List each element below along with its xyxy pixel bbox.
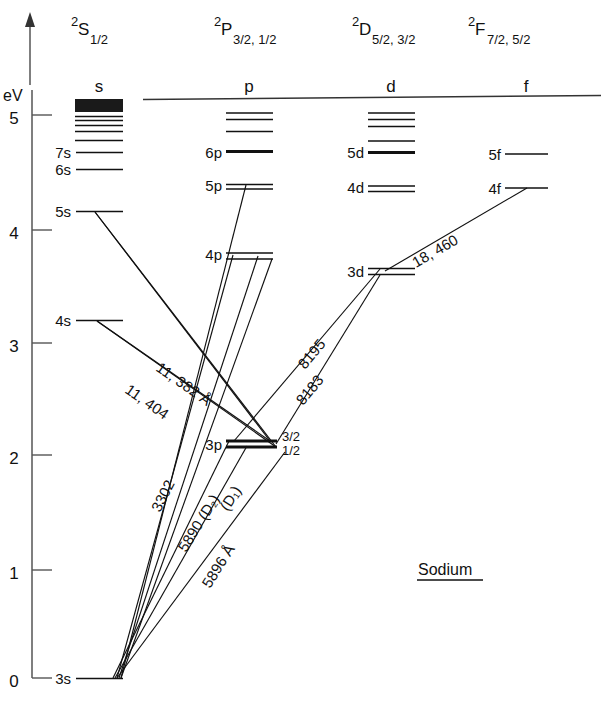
level-label-5p: 5p (205, 177, 222, 194)
grotrian-diagram-figure: eV 5 4 3 2 1 0 2 S 1/2 2 P 3/2, 1/2 2 D … (0, 0, 607, 708)
transition-5s-3p-b (95, 212, 276, 447)
term-d-symbol: D (359, 20, 371, 39)
transition-4f-3d-18460 (385, 188, 527, 271)
transition-4p-3s-a (117, 255, 233, 678)
level-label-4d: 4d (347, 179, 364, 196)
level-label-6p: 6p (205, 144, 222, 161)
term-d-subscript: 5/2, 3/2 (372, 32, 415, 47)
level-label-3s: 3s (55, 670, 71, 687)
f-series-levels (505, 154, 548, 188)
term-p-subscript: 3/2, 1/2 (233, 32, 276, 47)
level-label-4p: 4p (205, 246, 222, 263)
axis-unit-label: eV (3, 87, 23, 104)
transition-3p-3s-5896 (117, 452, 285, 678)
transition-5p-3s (121, 185, 246, 678)
axis-tick-label-2: 2 (9, 449, 18, 468)
fine-structure-label-12: 1/2 (282, 443, 300, 458)
transition-4p-3s-b (119, 256, 258, 678)
transition-lines (95, 185, 527, 678)
term-s-symbol: S (78, 20, 89, 39)
transition-3d-3p-8183 (276, 275, 380, 444)
d-series-levels (368, 113, 415, 275)
column-headers: 2 S 1/2 2 P 3/2, 1/2 2 D 5/2, 3/2 2 F 7/… (71, 14, 530, 96)
orbital-header-d: d (386, 77, 395, 96)
wavelength-label-18460: 18, 460 (409, 231, 461, 271)
wavelength-annotations: 11, 382 Å 11, 404 3302 5890 (D₂) 5896 Å … (122, 231, 461, 591)
term-f-symbol: F (475, 20, 485, 39)
axis-tick-label-1: 1 (9, 564, 18, 583)
axis-tick-label-4: 4 (9, 224, 18, 243)
wavelength-label-d1: (D₁) (216, 483, 244, 514)
orbital-header-s: s (95, 77, 104, 96)
level-label-6s: 6s (55, 161, 71, 178)
level-label-4s: 4s (55, 312, 71, 329)
axis-tick-label-5: 5 (9, 109, 18, 128)
level-label-7s: 7s (55, 144, 71, 161)
s-continuum-band (75, 99, 123, 112)
axis-arrow-head (25, 12, 35, 27)
energy-level-diagram-svg: eV 5 4 3 2 1 0 2 S 1/2 2 P 3/2, 1/2 2 D … (0, 0, 607, 708)
ionization-limit-line (143, 96, 601, 100)
term-f-subscript: 7/2, 5/2 (487, 32, 530, 47)
orbital-header-p: p (244, 77, 253, 96)
term-s-subscript: 1/2 (90, 32, 108, 47)
axis-tick-label-3: 3 (9, 337, 18, 356)
wavelength-label-5896: 5896 Å (198, 541, 238, 590)
level-label-4f: 4f (488, 180, 501, 197)
level-label-5s: 5s (55, 203, 71, 220)
orbital-header-f: f (524, 77, 529, 96)
fine-structure-label-32: 3/2 (282, 429, 300, 444)
s-series-levels (75, 99, 123, 679)
axis-tick-label-0: 0 (9, 672, 18, 691)
p-series-levels (226, 113, 277, 447)
term-p-symbol: P (221, 20, 232, 39)
element-name-label: Sodium (418, 561, 472, 578)
energy-axis (25, 12, 52, 678)
wavelength-label-11404: 11, 404 (122, 381, 172, 423)
level-label-5f: 5f (488, 146, 501, 163)
wavelength-label-8183: 8183 (292, 371, 326, 407)
level-label-3d: 3d (347, 263, 364, 280)
wavelength-label-3302: 3302 (148, 477, 178, 514)
level-label-5d: 5d (347, 144, 364, 161)
